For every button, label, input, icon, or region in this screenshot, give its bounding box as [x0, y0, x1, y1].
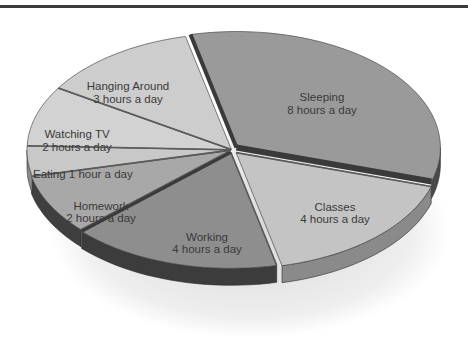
label-sleeping-hours: 8 hours a day: [287, 104, 357, 116]
label-homework: Homework 2 hours a day: [66, 200, 136, 224]
label-working-hours: 4 hours a day: [172, 243, 242, 255]
label-sleeping-name: Sleeping: [300, 91, 345, 103]
label-tv-hours: 2 hours a day: [42, 141, 112, 153]
label-homework-name: Homework: [74, 200, 129, 212]
label-working-name: Working: [186, 231, 228, 243]
label-classes-name: Classes: [315, 201, 356, 213]
label-eating: Eating 1 hour a day: [33, 168, 133, 180]
label-hanging-hours: 3 hours a day: [93, 93, 163, 105]
label-hanging: Hanging Around 3 hours a day: [87, 80, 169, 105]
label-classes-hours: 4 hours a day: [300, 213, 370, 225]
label-hanging-name: Hanging Around: [87, 80, 169, 92]
label-tv: Watching TV 2 hours a day: [42, 128, 112, 153]
label-tv-name: Watching TV: [44, 128, 110, 140]
pie-chart: Sleeping 8 hours a day Classes 4 hours a…: [0, 0, 468, 340]
label-homework-hours: 2 hours a day: [66, 212, 136, 224]
label-eating-name: Eating 1 hour a day: [33, 168, 133, 180]
